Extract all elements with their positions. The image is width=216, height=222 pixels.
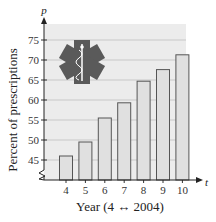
y-tick-label: 75 — [28, 34, 40, 46]
x-tick-label: 6 — [102, 184, 108, 196]
y-tick-label: 60 — [28, 94, 40, 106]
bar-10 — [176, 55, 189, 180]
bar-5 — [79, 142, 92, 180]
bar-8 — [137, 81, 150, 180]
bar-chart: 45505560657075 45678910 p t Year (4 ↔ 20… — [0, 0, 216, 222]
y-tick-label: 50 — [28, 134, 40, 146]
y-tick-label: 65 — [28, 74, 40, 86]
x-tick-label: 10 — [177, 184, 189, 196]
x-tick-label: 7 — [121, 184, 127, 196]
bar-9 — [157, 70, 170, 180]
y-axis-variable: p — [40, 4, 47, 16]
y-axis-label: Percent of prescriptions — [5, 48, 20, 171]
y-tick-label: 45 — [28, 154, 40, 166]
y-tick-labels: 45505560657075 — [28, 34, 40, 166]
x-axis-variable: t — [205, 176, 209, 188]
x-tick-label: 4 — [63, 184, 69, 196]
x-tick-label: 8 — [141, 184, 147, 196]
x-axis-label: Year (4 ↔ 2004) — [76, 199, 164, 214]
x-tick-label: 9 — [160, 184, 166, 196]
bar-7 — [118, 103, 131, 180]
y-tick-label: 55 — [28, 114, 40, 126]
y-tick-label: 70 — [28, 54, 40, 66]
x-tick-label: 5 — [83, 184, 89, 196]
x-tick-labels: 45678910 — [63, 184, 188, 196]
bar-6 — [98, 118, 111, 180]
bar-4 — [60, 156, 73, 180]
